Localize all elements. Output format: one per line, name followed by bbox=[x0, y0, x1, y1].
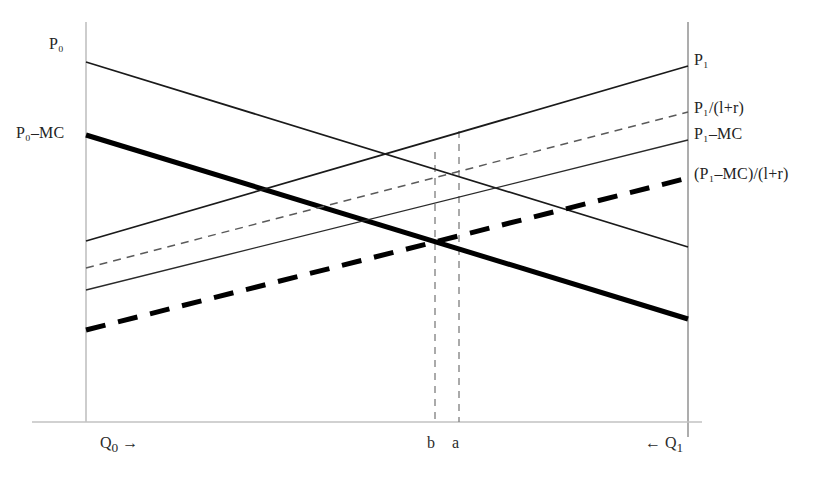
axis-label-q-zero: Q0 → bbox=[100, 434, 138, 456]
label-p-one-text: P₁ bbox=[694, 51, 709, 68]
series-line-p0 bbox=[86, 62, 688, 247]
label-p-one: P₁ bbox=[694, 52, 709, 69]
data-series-group bbox=[86, 62, 688, 330]
axes-group bbox=[32, 22, 702, 437]
label-p-one-minus-mc: P₁–MC bbox=[694, 126, 742, 143]
axis-label-q-zero-text: Q0 → bbox=[100, 434, 138, 451]
label-p-zero-base: P₀ bbox=[49, 35, 64, 52]
axis-label-q-one-text: ← Q1 bbox=[645, 434, 683, 451]
label-p-one-minus-mc-over-r-text: (P₁–MC)/(l+r) bbox=[694, 165, 789, 182]
axis-label-a: a bbox=[452, 434, 459, 452]
label-p-zero-minus-mc: P₀–MC bbox=[16, 125, 64, 142]
label-p-one-minus-mc-text: P₁–MC bbox=[694, 125, 742, 142]
axis-label-b: b bbox=[427, 434, 435, 452]
series-line-p1mcr bbox=[86, 178, 688, 330]
axis-label-q-one: ← Q1 bbox=[645, 434, 683, 456]
label-p-zero-minus-mc-text: P₀–MC bbox=[16, 124, 64, 141]
label-p-one-over-one-plus-r: P₁/(l+r) bbox=[694, 100, 744, 117]
axis-label-a-text: a bbox=[452, 434, 459, 451]
axis-label-b-text: b bbox=[427, 434, 435, 451]
economics-diagram-figure: P₀ P₀–MC P₁ P₁/(l+r) P₁–MC (P₁–MC)/(l+r)… bbox=[0, 0, 826, 479]
series-line-p1r bbox=[86, 112, 688, 268]
plot-canvas bbox=[0, 0, 826, 479]
label-p-one-over-one-plus-r-text: P₁/(l+r) bbox=[694, 99, 744, 116]
label-p-zero: P₀ bbox=[49, 36, 64, 53]
label-p-one-minus-mc-over-r: (P₁–MC)/(l+r) bbox=[694, 166, 789, 183]
